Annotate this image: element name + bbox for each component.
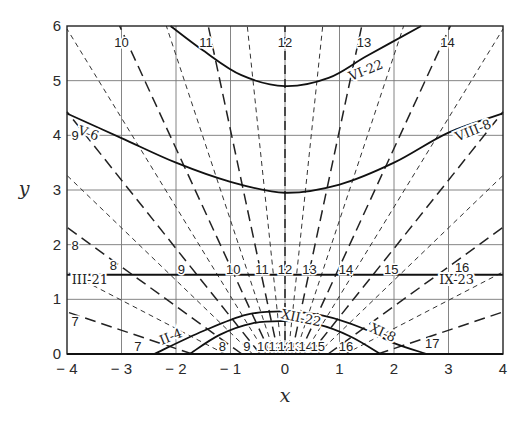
x-tick-label: 2: [390, 360, 398, 377]
hour-label: 16: [339, 339, 353, 354]
y-tick-label: 2: [53, 236, 61, 253]
date-curve-label: IX-23: [439, 272, 474, 287]
y-tick-label: 4: [53, 126, 61, 143]
half-hour-line: [304, 29, 503, 354]
plot-labels: 1011121314988910111213141516778910111213…: [72, 35, 494, 353]
hour-line-8: [67, 227, 242, 354]
y-tick-label: 1: [53, 290, 61, 307]
x-axis-label: x: [280, 384, 291, 406]
date-curve-label: XII-22: [280, 306, 323, 329]
hour-label: 7: [134, 339, 141, 354]
hour-label: 13: [357, 35, 371, 50]
hour-line-15: [310, 112, 503, 354]
y-tick-label: 5: [53, 72, 61, 89]
x-tick-label: 4: [499, 360, 507, 377]
hour-label: 8: [110, 258, 117, 273]
x-tick-label: 1: [335, 360, 343, 377]
x-tick-label: 0: [281, 360, 289, 377]
hour-label: 15: [310, 339, 324, 354]
date-curve-label: II-4: [157, 325, 184, 348]
x-tick-label: − 4: [56, 360, 77, 377]
hour-line-9: [67, 112, 260, 354]
axis-ticks: − 4− 3− 2− 1012340123456: [53, 17, 508, 377]
date-curve-label: V-6: [75, 122, 100, 143]
sundial-hour-line-diagram: 1011121314988910111213141516778910111213…: [0, 0, 523, 429]
x-tick-label: − 2: [165, 360, 186, 377]
y-axis-label: y: [18, 177, 30, 199]
hour-label: 7: [72, 314, 79, 329]
half-hour-line: [67, 29, 266, 354]
hour-label: 13: [302, 262, 316, 277]
y-tick-label: 0: [53, 345, 61, 362]
hour-label: 14: [440, 35, 454, 50]
x-tick-label: − 1: [220, 360, 241, 377]
hour-label: 12: [278, 35, 292, 50]
hour-label: 9: [178, 262, 185, 277]
hour-label: 14: [339, 262, 353, 277]
x-tick-label: 3: [444, 360, 452, 377]
hour-label: 11: [255, 262, 269, 277]
hour-label: 10: [114, 35, 128, 50]
hour-label: 15: [384, 262, 398, 277]
y-tick-label: 3: [53, 181, 61, 198]
hour-label: 10: [226, 262, 240, 277]
date-curve-label: VI-22: [346, 57, 385, 85]
hour-line-16: [328, 227, 503, 354]
half-hour-line: [67, 175, 253, 354]
hour-label: 9: [243, 339, 250, 354]
date-curve-label: III-21: [72, 272, 108, 287]
y-tick-label: 6: [53, 17, 61, 34]
hour-label: 8: [72, 238, 79, 253]
hour-label: 17: [425, 336, 439, 351]
date-curve-label: VIII-8: [452, 116, 493, 144]
hour-label: 11: [199, 35, 213, 50]
x-tick-label: − 3: [111, 360, 132, 377]
hour-label: 8: [219, 339, 226, 354]
hour-label: 12: [278, 262, 292, 277]
